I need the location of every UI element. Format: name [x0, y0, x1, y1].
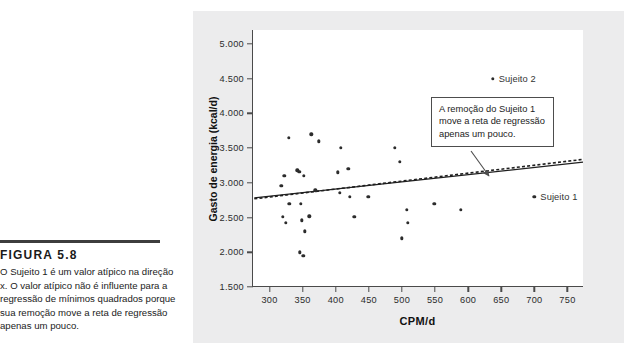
y-axis-tick: [247, 252, 253, 253]
y-axis-tick-label: 2.000: [220, 247, 245, 257]
data-point: [288, 202, 291, 205]
data-point: [406, 221, 409, 224]
data-point: [300, 219, 303, 222]
data-point: [459, 208, 462, 211]
x-axis-tick: [467, 286, 468, 292]
x-axis-tick: [368, 286, 369, 292]
y-axis-title-text: Gasto de energia (kcal/d): [207, 96, 219, 221]
regression-lines: [253, 30, 583, 286]
x-axis-title: CPM/d: [252, 315, 583, 327]
caption-divider: [0, 240, 160, 243]
data-point: [298, 170, 301, 173]
y-axis-tick-label: 4.500: [220, 74, 245, 84]
data-point: [303, 230, 306, 233]
x-axis-tick: [335, 286, 336, 292]
y-axis-tick-label: 3.500: [220, 143, 245, 153]
y-axis-tick: [247, 78, 253, 79]
x-axis-tick: [302, 286, 303, 292]
x-axis-tick-label: 400: [328, 295, 344, 305]
data-point: [393, 146, 396, 149]
data-point: [310, 132, 313, 135]
data-point: [405, 208, 408, 211]
data-point-highlighted: [491, 77, 494, 80]
regression-line: [254, 159, 583, 198]
data-point: [433, 202, 436, 205]
data-point: [348, 195, 351, 198]
data-point: [282, 174, 285, 177]
x-axis-tick-label: 750: [559, 295, 575, 305]
data-point: [302, 254, 305, 257]
plot-area: 1.5002.0002.5003.0003.5004.0004.5005.000…: [252, 30, 583, 287]
x-axis-tick: [269, 286, 270, 292]
y-axis-tick: [247, 43, 253, 44]
data-point: [287, 136, 290, 139]
data-point: [398, 160, 401, 163]
data-point: [314, 189, 317, 192]
data-point: [353, 215, 356, 218]
data-point: [400, 237, 403, 240]
y-axis-tick-label: 2.500: [220, 213, 245, 223]
y-axis-tick: [247, 182, 253, 183]
x-axis-tick-label: 350: [295, 295, 311, 305]
y-axis-tick-label: 3.000: [220, 178, 245, 188]
data-point: [366, 195, 369, 198]
x-axis-tick-label: 650: [493, 295, 509, 305]
x-axis-tick: [534, 286, 535, 292]
data-point-label: Sujeito 2: [499, 74, 536, 84]
x-axis-tick-label: 600: [460, 295, 476, 305]
x-axis-tick: [567, 286, 568, 292]
y-axis-tick: [247, 113, 253, 114]
data-point: [299, 202, 302, 205]
y-axis-tick-label: 1.500: [220, 282, 245, 292]
x-axis-tick-label: 300: [261, 295, 277, 305]
figure-panel: Gasto de energia (kcal/d) 1.5002.0002.50…: [193, 11, 624, 343]
x-axis-tick: [401, 286, 402, 292]
x-axis-tick: [434, 286, 435, 292]
data-point-label: Sujeito 1: [540, 192, 577, 202]
data-point: [339, 146, 342, 149]
regression-line: [254, 162, 583, 198]
figure-caption-block: FIGURA 5.8 O Sujeito 1 é um valor atípic…: [0, 240, 182, 333]
data-point: [347, 167, 350, 170]
data-point-highlighted: [533, 195, 536, 198]
data-point: [308, 214, 311, 217]
y-axis-tick-label: 5.000: [220, 39, 245, 49]
data-point: [284, 221, 287, 224]
data-point: [336, 171, 339, 174]
y-axis-tick: [247, 147, 253, 148]
data-point: [317, 139, 320, 142]
x-axis-tick-label: 700: [526, 295, 542, 305]
y-axis-tick-label: 4.000: [220, 108, 245, 118]
x-axis-tick-label: 550: [427, 295, 443, 305]
data-point: [338, 191, 341, 194]
annotation-callout: A remoção do Sujeito 1 move a reta de re…: [431, 97, 554, 147]
x-axis-tick-label: 450: [361, 295, 377, 305]
figure-caption-text: O Sujeito 1 é um valor atípico na direçã…: [0, 265, 178, 333]
figure-label: FIGURA 5.8: [0, 248, 182, 262]
data-point: [281, 215, 284, 218]
data-point: [280, 184, 283, 187]
x-axis-tick-label: 500: [394, 295, 410, 305]
y-axis-tick: [247, 286, 253, 287]
data-point: [302, 174, 305, 177]
x-axis-tick: [501, 286, 502, 292]
y-axis-tick: [247, 217, 253, 218]
